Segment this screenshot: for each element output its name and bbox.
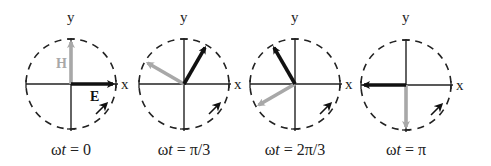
h-vector-label: H	[56, 56, 67, 71]
field-rotation-diagram: xyHEωt = 0xyωt = π/3xyωt = 2π/3xyωt = π	[0, 0, 491, 166]
x-axis-label: x	[234, 76, 242, 92]
rotation-direction-icon	[431, 105, 441, 115]
time-caption: ωt = π/3	[158, 141, 211, 158]
panel-3: xyωt = π	[361, 9, 464, 158]
h-field-vector	[259, 84, 295, 105]
time-caption: ωt = π	[386, 141, 426, 158]
x-axis-label: x	[456, 77, 464, 93]
rotation-direction-icon	[209, 104, 219, 114]
x-axis-label: x	[345, 76, 353, 92]
x-axis-label: x	[121, 76, 129, 92]
y-axis-label: y	[67, 9, 75, 25]
h-field-vector	[148, 63, 184, 84]
panel-0: xyHEωt = 0	[26, 9, 129, 158]
time-caption: ωt = 2π/3	[265, 141, 326, 158]
e-field-vector	[184, 48, 205, 84]
y-axis-label: y	[402, 9, 410, 25]
panel-1: xyωt = π/3	[139, 9, 242, 158]
time-caption: ωt = 0	[51, 141, 91, 158]
e-vector-label: E	[90, 89, 99, 104]
rotation-direction-icon	[320, 104, 330, 114]
rotation-direction-icon	[96, 104, 106, 114]
diagram-canvas: xyHEωt = 0xyωt = π/3xyωt = 2π/3xyωt = π	[0, 0, 491, 166]
y-axis-label: y	[291, 9, 299, 25]
y-axis-label: y	[180, 9, 188, 25]
panel-2: xyωt = 2π/3	[250, 9, 353, 158]
e-field-vector	[274, 48, 295, 84]
